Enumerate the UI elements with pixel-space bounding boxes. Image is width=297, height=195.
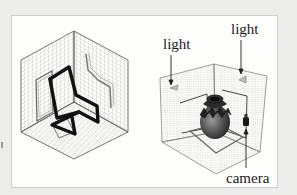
- light-label-left: light: [163, 37, 191, 52]
- vase-scene: [160, 40, 267, 174]
- camera-label: camera: [226, 171, 269, 186]
- light-label-right: light: [231, 22, 259, 37]
- chair-scene: [21, 31, 128, 159]
